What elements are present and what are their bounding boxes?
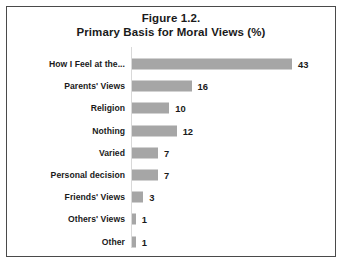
category-label: Others' Views [7,214,125,224]
bar-row: Personal decision7 [7,164,335,186]
bar [132,192,143,203]
bar [132,236,136,247]
bar-value-label: 1 [142,236,147,247]
category-label: Varied [7,148,125,158]
bar-value-label: 10 [175,103,185,114]
category-label: Personal decision [7,170,125,180]
category-label: Religion [7,103,125,113]
chart-title: Figure 1.2. Primary Basis for Moral View… [7,11,335,39]
bar-value-label: 1 [142,214,147,225]
bar-row: Varied7 [7,142,335,164]
bar-row: How I Feel at the...43 [7,53,335,75]
bar-value-label: 7 [164,147,169,158]
bar [132,170,158,181]
bar-value-label: 43 [298,59,308,70]
bar-row: Nothing12 [7,120,335,142]
bar-value-label: 16 [198,81,208,92]
bar [132,214,136,225]
bar [132,81,192,92]
category-label: Other [7,237,125,247]
bar [132,125,177,136]
chart-title-line-2: Primary Basis for Moral Views (%) [7,25,335,39]
plot-area: How I Feel at the...43Parents' Views16Re… [7,45,335,252]
bar-value-label: 3 [149,192,154,203]
bar [132,147,158,158]
category-label: Nothing [7,126,125,136]
bar [132,59,292,70]
bar-value-label: 7 [164,170,169,181]
category-label: How I Feel at the... [7,59,125,69]
category-label: Parents' Views [7,81,125,91]
figure-frame: Figure 1.2. Primary Basis for Moral View… [6,6,336,257]
bar-row: Religion10 [7,97,335,119]
bar-row: Friends' Views3 [7,186,335,208]
bar [132,103,169,114]
category-label: Friends' Views [7,192,125,202]
bar-row: Parents' Views16 [7,75,335,97]
bar-row: Others' Views1 [7,208,335,230]
bar-row: Other1 [7,231,335,253]
chart-title-line-1: Figure 1.2. [7,11,335,25]
bar-value-label: 12 [183,125,193,136]
